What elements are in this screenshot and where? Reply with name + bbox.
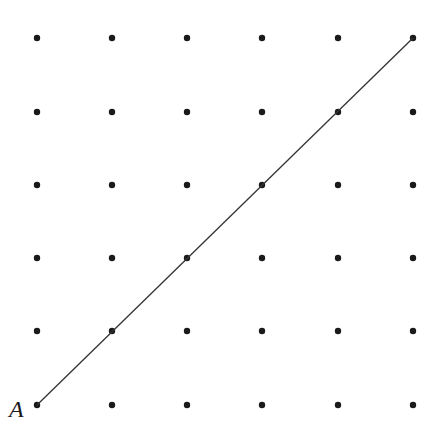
lattice-dot: [184, 182, 190, 188]
lattice-dot: [109, 182, 115, 188]
lattice-dot: [109, 255, 115, 261]
lattice-diagram: [0, 0, 444, 440]
diagonal-line: [37, 38, 413, 405]
lattice-dot: [34, 35, 40, 41]
lattice-dot: [109, 109, 115, 115]
lattice-dot: [259, 109, 265, 115]
lattice-dot: [335, 255, 341, 261]
lattice-dot: [34, 182, 40, 188]
lattice-dot: [184, 328, 190, 334]
lattice-dot: [259, 35, 265, 41]
lattice-dot: [335, 35, 341, 41]
lattice-dot: [410, 109, 416, 115]
lattice-dot: [109, 35, 115, 41]
lattice-dot: [34, 328, 40, 334]
lattice-dot: [184, 402, 190, 408]
lattice-dot: [410, 255, 416, 261]
lattice-dot: [184, 109, 190, 115]
lattice-dot: [259, 255, 265, 261]
lattice-dot: [335, 182, 341, 188]
lattice-dot: [34, 109, 40, 115]
lattice-dot: [34, 255, 40, 261]
lattice-dot: [410, 182, 416, 188]
lattice-dot: [184, 35, 190, 41]
lattice-dot: [109, 402, 115, 408]
lattice-dot: [259, 402, 265, 408]
lattice-dot: [259, 328, 265, 334]
lattice-dot: [410, 328, 416, 334]
point-label-a: A: [9, 396, 24, 423]
lattice-dot: [410, 402, 416, 408]
lattice-dot: [335, 328, 341, 334]
lattice-dot: [335, 402, 341, 408]
